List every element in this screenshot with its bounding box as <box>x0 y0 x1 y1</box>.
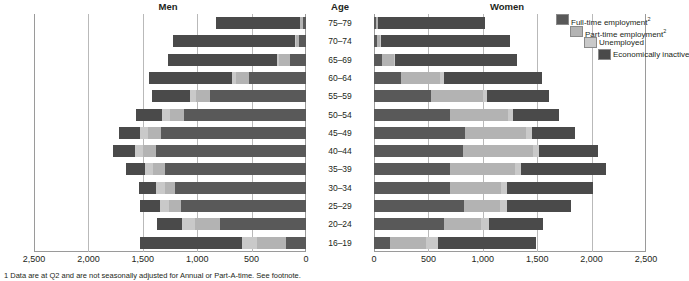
stacked-bar-men-16–19[interactable] <box>140 237 306 249</box>
bar-segment-full-time-employment <box>210 90 306 102</box>
age-label: 60–64 <box>306 69 374 87</box>
stacked-bar-women-20–24[interactable] <box>374 218 543 230</box>
stacked-bar-women-65–69[interactable] <box>374 54 517 66</box>
bar-segment-part-time-employment <box>143 145 156 157</box>
age-label: 55–59 <box>306 87 374 105</box>
bar-segment-economically-inactive <box>521 163 606 175</box>
bar-segment-part-time-employment <box>165 182 176 194</box>
bar-segment-full-time-employment <box>374 182 450 194</box>
bar-row <box>34 160 306 178</box>
stacked-bar-men-75–79[interactable] <box>216 17 306 29</box>
panel-men <box>34 14 306 252</box>
stacked-bar-men-30–34[interactable] <box>139 182 306 194</box>
bar-segment-economically-inactive <box>152 90 190 102</box>
legend-swatch <box>598 49 611 60</box>
bar-segment-economically-inactive <box>140 237 242 249</box>
bar-row <box>374 124 646 142</box>
bar-segment-full-time-employment <box>374 109 450 121</box>
bar-segment-part-time-employment <box>169 200 181 212</box>
stacked-bar-men-50–54[interactable] <box>136 109 306 121</box>
bar-segment-economically-inactive <box>216 17 300 29</box>
stacked-bar-men-25–29[interactable] <box>140 200 306 212</box>
axis-tick-label: 1,500 <box>526 254 549 264</box>
bar-segment-unemployed <box>481 218 490 230</box>
axis-tick-label: 2,000 <box>580 254 603 264</box>
axis-tick-label: 2,000 <box>77 254 100 264</box>
bar-row <box>34 179 306 197</box>
bar-segment-full-time-employment <box>161 127 306 139</box>
bar-row <box>374 160 646 178</box>
bar-segment-economically-inactive <box>532 127 574 139</box>
bar-row <box>34 69 306 87</box>
bar-segment-economically-inactive <box>119 127 140 139</box>
bar-segment-full-time-employment <box>175 182 306 194</box>
bar-segment-full-time-employment <box>374 90 431 102</box>
axis-tick-label: 2,500 <box>635 254 658 264</box>
stacked-bar-women-35–39[interactable] <box>374 163 606 175</box>
bar-segment-full-time-employment <box>374 145 463 157</box>
bar-segment-full-time-employment <box>184 109 306 121</box>
age-label: 75–79 <box>306 14 374 32</box>
age-label: 30–34 <box>306 179 374 197</box>
axis-tick-label: 1,500 <box>132 254 155 264</box>
stacked-bar-women-30–34[interactable] <box>374 182 593 194</box>
bar-segment-economically-inactive <box>489 218 542 230</box>
stacked-bar-men-60–64[interactable] <box>149 72 306 84</box>
bar-segment-part-time-employment <box>196 90 210 102</box>
age-label: 45–49 <box>306 124 374 142</box>
bar-segment-part-time-employment <box>431 90 483 102</box>
bar-row <box>34 234 306 252</box>
bar-segment-part-time-employment <box>257 237 286 249</box>
axis-tick-label: 0 <box>303 254 308 264</box>
stacked-bar-women-40–44[interactable] <box>374 145 598 157</box>
bar-segment-full-time-employment <box>374 127 465 139</box>
bar-segment-part-time-employment <box>390 237 426 249</box>
stacked-bar-women-75–79[interactable] <box>374 17 485 29</box>
bar-segment-economically-inactive <box>157 218 182 230</box>
column-headers: Men Age Women <box>0 0 680 14</box>
bar-segment-unemployed <box>140 127 148 139</box>
bar-row <box>34 215 306 233</box>
stacked-bar-men-20–24[interactable] <box>157 218 306 230</box>
bar-segment-economically-inactive <box>507 182 593 194</box>
age-label: 70–74 <box>306 32 374 50</box>
stacked-bar-women-25–29[interactable] <box>374 200 571 212</box>
axis-tick-label: 500 <box>244 254 259 264</box>
chart-legend: Full-time employment2Part-time employmen… <box>556 14 680 64</box>
stacked-bar-men-70–74[interactable] <box>173 35 306 47</box>
bar-segment-part-time-employment <box>236 72 249 84</box>
bar-segment-part-time-employment <box>195 218 220 230</box>
stacked-bar-men-55–59[interactable] <box>152 90 306 102</box>
stacked-bar-men-45–49[interactable] <box>119 127 306 139</box>
bar-segment-economically-inactive <box>173 35 295 47</box>
bar-row <box>374 197 646 215</box>
bar-row <box>374 215 646 233</box>
bar-segment-economically-inactive <box>444 72 542 84</box>
bar-segment-part-time-employment <box>148 127 161 139</box>
stacked-bar-women-16–19[interactable] <box>374 237 536 249</box>
axis-tick-label: 2,500 <box>23 254 46 264</box>
stacked-bar-men-40–44[interactable] <box>113 145 306 157</box>
stacked-bar-women-50–54[interactable] <box>374 109 559 121</box>
bar-segment-economically-inactive <box>168 54 277 66</box>
bar-segment-full-time-employment <box>165 163 306 175</box>
bar-row <box>374 234 646 252</box>
bar-segment-economically-inactive <box>139 182 156 194</box>
bar-segment-full-time-employment <box>156 145 306 157</box>
bar-segment-unemployed <box>160 200 169 212</box>
bar-row <box>374 106 646 124</box>
bar-segment-unemployed <box>156 182 164 194</box>
stacked-bar-women-55–59[interactable] <box>374 90 549 102</box>
age-label: 20–24 <box>306 215 374 233</box>
stacked-bar-men-65–69[interactable] <box>168 54 306 66</box>
stacked-bar-men-35–39[interactable] <box>126 163 306 175</box>
stacked-bar-women-60–64[interactable] <box>374 72 542 84</box>
age-label: 40–44 <box>306 142 374 160</box>
stacked-bar-women-45–49[interactable] <box>374 127 575 139</box>
bar-segment-part-time-employment <box>382 54 394 66</box>
bar-segment-part-time-employment <box>153 163 164 175</box>
bar-segment-economically-inactive <box>149 72 232 84</box>
bar-segment-full-time-employment <box>249 72 306 84</box>
bar-segment-unemployed <box>242 237 257 249</box>
stacked-bar-women-70–74[interactable] <box>374 35 510 47</box>
